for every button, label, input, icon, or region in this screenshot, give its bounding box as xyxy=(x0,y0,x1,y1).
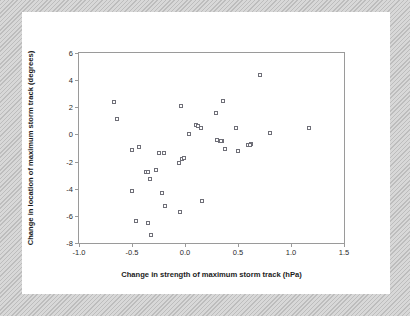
y-axis-tick-label: 4 xyxy=(69,76,73,85)
plot-area: -1.0-0.50.00.51.01.56420-2-4-6-8 xyxy=(78,52,345,244)
x-axis-tick-label: 1.0 xyxy=(286,248,296,257)
data-point xyxy=(112,100,116,104)
y-axis-tick xyxy=(75,243,79,244)
data-point xyxy=(214,111,218,115)
x-axis-tick-label: 0.0 xyxy=(180,248,190,257)
y-axis-tick xyxy=(75,107,79,108)
data-point xyxy=(157,151,161,155)
data-point xyxy=(307,126,311,130)
x-axis-tick xyxy=(79,243,80,247)
x-axis-tick-label: -0.5 xyxy=(126,248,139,257)
scatter-chart: -1.0-0.50.00.51.01.56420-2-4-6-8 Change … xyxy=(22,12,390,294)
data-point xyxy=(182,156,186,160)
y-axis-tick xyxy=(75,80,79,81)
data-point xyxy=(163,204,167,208)
data-point xyxy=(234,126,238,130)
x-axis-tick xyxy=(132,243,133,247)
figure-page: -1.0-0.50.00.51.01.56420-2-4-6-8 Change … xyxy=(22,12,390,294)
data-point xyxy=(258,73,262,77)
data-point xyxy=(149,233,153,237)
data-point xyxy=(177,161,181,165)
data-point xyxy=(160,191,164,195)
x-axis-tick-label: -1.0 xyxy=(73,248,86,257)
data-point xyxy=(148,177,152,181)
data-point xyxy=(248,143,252,147)
data-point xyxy=(200,199,204,203)
x-axis-tick xyxy=(291,243,292,247)
y-axis-title: Change in location of maximum storm trac… xyxy=(26,51,35,246)
data-point xyxy=(130,189,134,193)
data-point xyxy=(221,99,225,103)
y-axis-tick xyxy=(75,162,79,163)
data-point xyxy=(236,149,240,153)
x-axis-tick-label: 1.5 xyxy=(339,248,349,257)
data-point xyxy=(268,131,272,135)
y-axis-tick-label: -8 xyxy=(66,239,73,248)
x-axis-tick-label: 0.5 xyxy=(233,248,243,257)
y-axis-tick-label: -6 xyxy=(66,211,73,220)
data-point xyxy=(162,151,166,155)
data-point xyxy=(137,145,141,149)
data-point xyxy=(115,117,119,121)
data-point xyxy=(146,170,150,174)
x-axis-tick xyxy=(238,243,239,247)
data-point xyxy=(134,219,138,223)
x-axis-tick xyxy=(185,243,186,247)
y-axis-tick xyxy=(75,134,79,135)
y-axis-tick-label: 2 xyxy=(69,103,73,112)
y-axis-tick-label: 0 xyxy=(69,130,73,139)
y-axis-tick-label: 6 xyxy=(69,49,73,58)
y-axis-tick xyxy=(75,53,79,54)
data-point xyxy=(130,148,134,152)
y-axis-tick xyxy=(75,216,79,217)
data-point xyxy=(223,147,227,151)
data-point xyxy=(187,132,191,136)
data-point xyxy=(146,221,150,225)
data-point xyxy=(179,104,183,108)
data-point xyxy=(196,124,200,128)
y-axis-tick-label: -4 xyxy=(66,184,73,193)
y-axis-tick-label: -2 xyxy=(66,157,73,166)
x-axis-tick xyxy=(344,243,345,247)
data-point xyxy=(154,168,158,172)
data-point xyxy=(178,210,182,214)
y-axis-tick xyxy=(75,189,79,190)
x-axis-title: Change in strength of maximum storm trac… xyxy=(78,270,345,279)
data-point xyxy=(219,139,223,143)
